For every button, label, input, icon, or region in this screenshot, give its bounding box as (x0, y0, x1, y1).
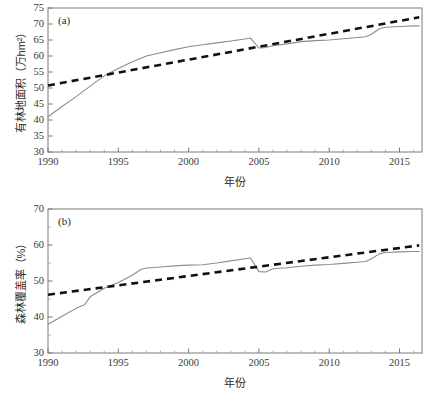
chart-panel-a: (a) 有林地面积（万hm²） 年份 303540455055606570751… (0, 0, 435, 200)
x-tick-label: 2015 (389, 358, 410, 369)
data-series-solid (48, 26, 419, 117)
x-tick-label: 2010 (319, 157, 340, 168)
y-tick-label: 40 (0, 312, 44, 323)
y-tick-label: 50 (0, 276, 44, 287)
y-tick-label: 50 (0, 83, 44, 94)
x-tick-label: 1990 (38, 157, 59, 168)
x-tick-label: 2010 (319, 358, 340, 369)
x-tick-label: 1995 (108, 358, 129, 369)
x-tick-label: 1990 (38, 358, 59, 369)
y-tick-label: 60 (0, 51, 44, 62)
plot-frame (48, 209, 422, 353)
y-tick-label: 35 (0, 131, 44, 142)
plot-area-b (0, 200, 435, 411)
y-tick-label: 75 (0, 3, 44, 14)
trend-line-dashed (48, 245, 419, 294)
x-tick-label: 2000 (178, 157, 199, 168)
trend-line-dashed (48, 17, 419, 85)
figure-container: (a) 有林地面积（万hm²） 年份 303540455055606570751… (0, 0, 435, 411)
plot-area-a (0, 0, 435, 200)
chart-panel-b: (b) 森林覆盖率（%） 年份 304050607019901995200020… (0, 200, 435, 411)
x-tick-label: 2000 (178, 358, 199, 369)
y-tick-label: 40 (0, 115, 44, 126)
data-series-solid (48, 251, 419, 324)
x-tick-label: 2015 (389, 157, 410, 168)
x-tick-label: 1995 (108, 157, 129, 168)
y-tick-label: 65 (0, 35, 44, 46)
y-tick-label: 60 (0, 240, 44, 251)
y-tick-label: 70 (0, 204, 44, 215)
y-tick-label: 70 (0, 19, 44, 30)
plot-frame (48, 8, 422, 152)
y-tick-label: 45 (0, 99, 44, 110)
x-tick-label: 2005 (248, 157, 269, 168)
x-tick-label: 2005 (248, 358, 269, 369)
y-tick-label: 55 (0, 67, 44, 78)
